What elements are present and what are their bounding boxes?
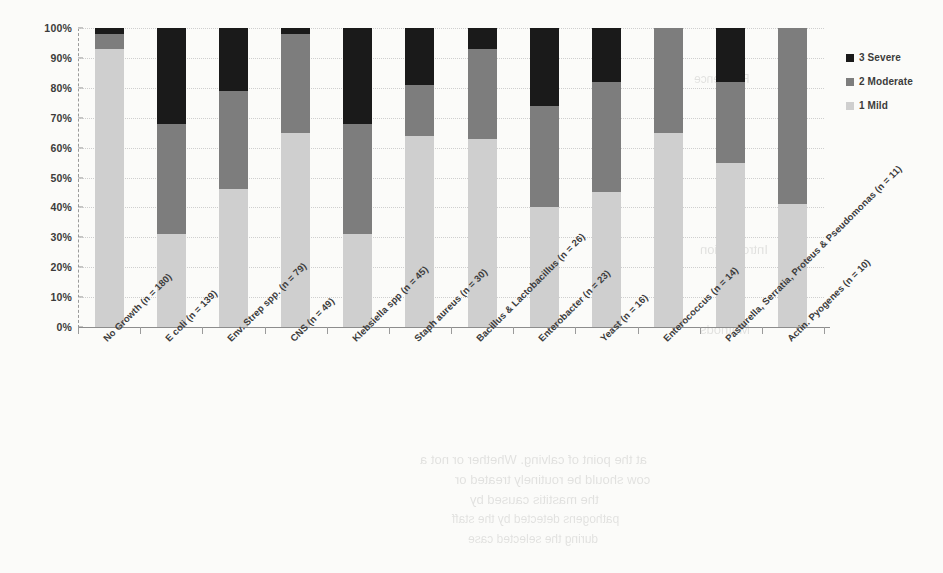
y-tick-label-text: 50% [50,172,72,184]
x-tick-mark [700,327,701,334]
x-tick-mark [140,327,141,334]
x-tick-mark [389,327,390,334]
bar-column[interactable] [343,28,372,327]
bar-segment[interactable] [405,136,434,327]
y-tick-label-text: 80% [50,82,72,94]
bar-segment[interactable] [157,28,186,124]
bar-segment[interactable] [343,124,372,235]
bars-container [78,28,824,327]
chart-legend: 3 Severe2 Moderate1 Mild [846,52,913,111]
bar-segment[interactable] [592,192,621,327]
legend-item-label: 3 Severe [859,52,901,63]
y-tick-label-text: 10% [50,291,72,303]
bar-segment[interactable] [219,189,248,327]
x-axis-line [78,327,830,328]
bar-segment[interactable] [405,85,434,136]
y-tick-label-text: 100% [44,22,72,34]
bar-column[interactable] [219,28,248,327]
x-tick-mark [762,327,763,334]
bar-column[interactable] [95,28,124,327]
bar-segment[interactable] [654,133,683,327]
bar-segment[interactable] [468,139,497,327]
bar-segment[interactable] [343,234,372,327]
bar-segment[interactable] [468,28,497,49]
x-tick-mark [451,327,452,334]
legend-swatch-icon [846,78,854,86]
stacked-bar-chart: 100%90%80%70%60%50%40%30%20%10%0% No Gro… [0,0,943,573]
bar-segment[interactable] [654,28,683,133]
legend-item[interactable]: 1 Mild [846,100,913,111]
bar-segment[interactable] [530,106,559,208]
y-tick-label-text: 20% [50,261,72,273]
bar-column[interactable] [654,28,683,327]
y-tick-label-text: 0% [56,321,72,333]
x-tick-mark [575,327,576,334]
bar-segment[interactable] [157,124,186,235]
x-tick-mark [202,327,203,334]
legend-item[interactable]: 3 Severe [846,52,913,63]
bar-segment[interactable] [95,49,124,327]
bar-segment[interactable] [530,28,559,106]
x-tick-mark [513,327,514,334]
bar-segment[interactable] [592,82,621,193]
legend-item-label: 2 Moderate [859,76,913,87]
bar-segment[interactable] [468,49,497,139]
legend-item[interactable]: 2 Moderate [846,76,913,87]
y-tick-label-text: 40% [50,201,72,213]
bar-segment[interactable] [405,28,434,85]
bar-segment[interactable] [716,28,745,82]
bar-segment[interactable] [716,163,745,327]
bar-segment[interactable] [281,34,310,133]
legend-swatch-icon [846,54,854,62]
bar-segment[interactable] [219,91,248,190]
y-tick-label-text: 70% [50,112,72,124]
y-tick-label-text: 30% [50,231,72,243]
legend-item-label: 1 Mild [859,100,888,111]
legend-swatch-icon [846,102,854,110]
x-tick-mark [265,327,266,334]
bar-segment[interactable] [592,28,621,82]
y-tick-label-text: 90% [50,52,72,64]
x-tick-mark [78,327,79,334]
bar-segment[interactable] [716,82,745,163]
bar-segment[interactable] [219,28,248,91]
x-tick-mark [824,327,825,334]
bar-segment[interactable] [778,28,807,204]
bar-segment[interactable] [343,28,372,124]
x-tick-mark [638,327,639,334]
bar-segment[interactable] [95,34,124,49]
y-tick-label-text: 60% [50,142,72,154]
x-tick-mark [327,327,328,334]
bar-segment[interactable] [281,133,310,327]
